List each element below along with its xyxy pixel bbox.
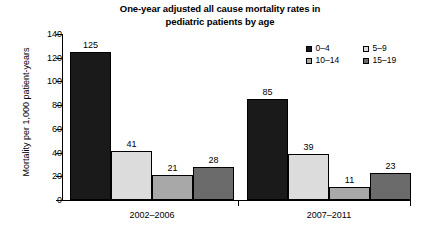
y-tick-20: 20 bbox=[0, 176, 62, 177]
bar-value-label: 23 bbox=[370, 162, 411, 171]
legend-label-0-4: 0–4 bbox=[316, 44, 330, 53]
legend-item-5-9: 5–9 bbox=[363, 44, 387, 53]
y-tick-label-20: 20 bbox=[10, 172, 62, 181]
bar-2002-2006-15-19 bbox=[193, 167, 234, 200]
x-tick-mark-1 bbox=[410, 200, 411, 206]
y-tick-100: 100 bbox=[0, 81, 62, 82]
legend-item-0-4: 0–4 bbox=[306, 44, 330, 53]
bar-2007-2011-0-4 bbox=[247, 99, 288, 200]
legend-swatch-icon-0-4 bbox=[306, 46, 312, 52]
y-tick-label-140: 140 bbox=[10, 30, 62, 39]
y-tick-label-40: 40 bbox=[10, 149, 62, 158]
chart-title: One-year adjusted all cause mortality ra… bbox=[60, 3, 380, 28]
bar-value-label: 41 bbox=[111, 140, 152, 149]
legend-label-5-9: 5–9 bbox=[373, 44, 387, 53]
bar-value-label: 21 bbox=[152, 164, 193, 173]
chart-legend: 0–4 5–9 10–14 15–19 bbox=[306, 44, 424, 68]
legend-swatch-icon-5-9 bbox=[363, 46, 369, 52]
x-axis-label-2002-2006: 2002–2006 bbox=[70, 210, 234, 220]
x-axis-label-2007-2011: 2007–2011 bbox=[247, 210, 411, 220]
y-tick-0: 0 bbox=[0, 200, 62, 201]
x-axis-line bbox=[62, 200, 411, 201]
legend-item-10-14: 10–14 bbox=[306, 56, 339, 65]
bar-2002-2006-5-9 bbox=[111, 151, 152, 200]
chart-title-line-2: pediatric patients by age bbox=[60, 16, 380, 29]
y-tick-label-60: 60 bbox=[10, 125, 62, 134]
chart-title-line-1: One-year adjusted all cause mortality ra… bbox=[120, 3, 320, 14]
bar-value-label: 28 bbox=[193, 156, 234, 165]
y-tick-60: 60 bbox=[0, 129, 62, 130]
y-tick-80: 80 bbox=[0, 105, 62, 106]
bar-value-label: 11 bbox=[329, 176, 370, 185]
bar-2002-2006-0-4 bbox=[70, 52, 111, 200]
bar-2007-2011-15-19 bbox=[370, 173, 411, 200]
bar-2007-2011-5-9 bbox=[288, 154, 329, 200]
legend-swatch-icon-10-14 bbox=[306, 58, 312, 64]
legend-item-15-19: 15–19 bbox=[363, 56, 396, 65]
bar-chart: One-year adjusted all cause mortality ra… bbox=[0, 0, 426, 231]
y-tick-40: 40 bbox=[0, 153, 62, 154]
y-tick-label-100: 100 bbox=[10, 77, 62, 86]
bar-value-label: 125 bbox=[70, 41, 111, 50]
bar-2007-2011-10-14 bbox=[329, 187, 370, 200]
legend-label-15-19: 15–19 bbox=[373, 56, 397, 65]
legend-swatch-icon-15-19 bbox=[363, 58, 369, 64]
y-axis-line bbox=[62, 34, 63, 200]
y-tick-label-0: 0 bbox=[10, 196, 62, 205]
bar-value-label: 85 bbox=[247, 88, 288, 97]
y-tick-140: 140 bbox=[0, 34, 62, 35]
bar-value-label: 39 bbox=[288, 143, 329, 152]
y-tick-120: 120 bbox=[0, 58, 62, 59]
y-tick-label-120: 120 bbox=[10, 54, 62, 63]
y-tick-label-80: 80 bbox=[10, 101, 62, 110]
x-tick-mark-0 bbox=[238, 200, 239, 206]
legend-label-10-14: 10–14 bbox=[316, 56, 340, 65]
bar-2002-2006-10-14 bbox=[152, 175, 193, 200]
